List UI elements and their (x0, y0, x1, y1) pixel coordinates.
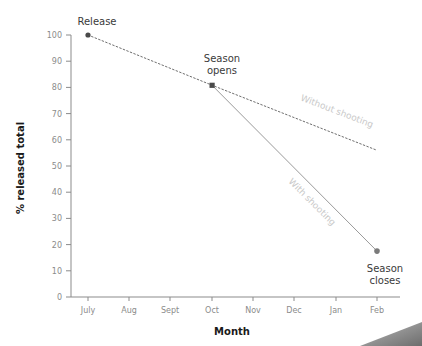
y-tick-label-80: 80 (52, 83, 62, 92)
annotation-release: Release (77, 16, 116, 27)
y-tick-label-20: 20 (52, 241, 62, 250)
x-axis-title: Month (214, 326, 250, 337)
y-tick-label-40: 40 (52, 188, 62, 197)
chart-canvas: 0 10 20 30 40 50 60 70 80 90 100 Ju (0, 0, 422, 346)
x-tick-label-sept: Sept (161, 306, 179, 315)
y-tick-label-30: 30 (52, 214, 62, 223)
x-tick-label-nov: Nov (245, 306, 261, 315)
annotation-season-opens-line2: opens (207, 65, 237, 76)
x-tick-label-oct: Oct (205, 306, 219, 315)
y-tick-label-90: 90 (52, 57, 62, 66)
y-tick-label-70: 70 (52, 110, 62, 119)
y-tick-label-60: 60 (52, 136, 62, 145)
data-point-season-opens (210, 83, 215, 88)
x-tick-label-july: July (80, 306, 96, 315)
y-tick-label-100: 100 (47, 31, 62, 40)
y-tick-label-50: 50 (52, 162, 62, 171)
y-axis-tick-labels: 0 10 20 30 40 50 60 70 80 90 100 (47, 31, 62, 302)
data-point-season-closes (374, 248, 380, 254)
y-axis-ticks (66, 35, 71, 297)
y-tick-label-10: 10 (52, 267, 62, 276)
line-chart: 0 10 20 30 40 50 60 70 80 90 100 Ju (0, 0, 422, 346)
y-tick-label-0: 0 (57, 293, 62, 302)
x-tick-label-feb: Feb (370, 306, 384, 315)
x-tick-label-jan: Jan (329, 306, 342, 315)
x-tick-label-dec: Dec (286, 306, 301, 315)
y-axis-title: % released total (15, 122, 26, 214)
x-axis-ticks (88, 297, 377, 301)
x-axis-tick-labels: July Aug Sept Oct Nov Dec Jan Feb (80, 306, 384, 315)
data-point-release (85, 32, 90, 37)
annotation-season-closes-line1: Season (367, 263, 403, 274)
series-label-with-shooting: With shooting (287, 176, 338, 227)
annotation-season-opens-line1: Season (204, 53, 240, 64)
annotation-season-closes-line2: closes (370, 275, 401, 286)
series-line-with-shooting (212, 85, 377, 251)
x-tick-label-aug: Aug (121, 306, 137, 315)
